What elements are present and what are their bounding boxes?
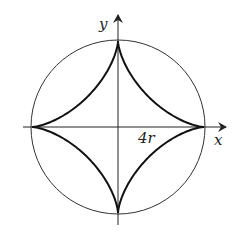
y-axis-label: y	[98, 15, 108, 33]
x-axis-label: x	[214, 131, 223, 149]
astroid-diagram: y x 4r	[0, 0, 239, 233]
radius-label: 4r	[137, 129, 156, 147]
